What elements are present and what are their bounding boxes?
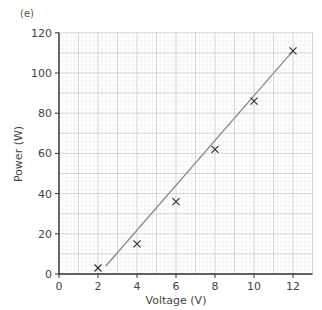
y-axis-label: Power (W) [12, 126, 25, 182]
svg-text:12: 12 [286, 280, 300, 293]
tick-labels: 024681012020406080100120 [31, 27, 300, 293]
svg-text:60: 60 [38, 147, 52, 160]
svg-text:100: 100 [31, 67, 52, 80]
svg-text:80: 80 [38, 107, 52, 120]
svg-text:8: 8 [212, 280, 219, 293]
svg-text:0: 0 [45, 268, 52, 281]
svg-text:10: 10 [247, 280, 261, 293]
power-voltage-chart: 024681012020406080100120 Voltage (V) Pow… [0, 0, 322, 310]
svg-text:2: 2 [95, 280, 102, 293]
svg-text:6: 6 [173, 280, 180, 293]
x-axis-label: Voltage (V) [146, 294, 207, 307]
svg-text:4: 4 [134, 280, 141, 293]
svg-text:40: 40 [38, 188, 52, 201]
svg-text:20: 20 [38, 228, 52, 241]
svg-text:120: 120 [31, 27, 52, 40]
svg-text:0: 0 [56, 280, 63, 293]
